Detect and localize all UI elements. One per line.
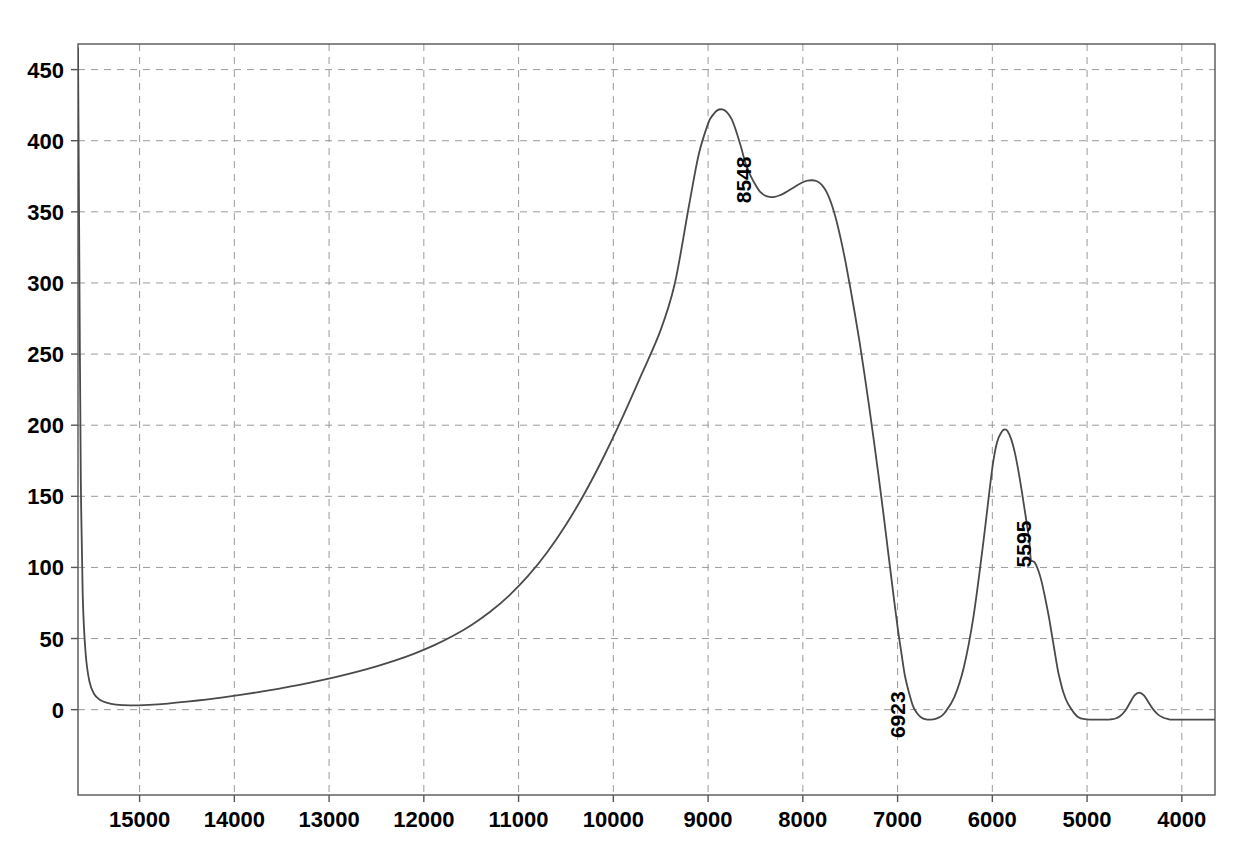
y-tick-label: 250 <box>27 342 64 367</box>
x-tick-label: 15000 <box>109 807 170 832</box>
x-tick-label: 9000 <box>684 807 733 832</box>
x-tick-label: 8000 <box>778 807 827 832</box>
y-tick-label: 200 <box>27 413 64 438</box>
y-tick-label: 450 <box>27 58 64 83</box>
y-tick-label: 300 <box>27 271 64 296</box>
x-tick-label: 6000 <box>968 807 1017 832</box>
y-tick-label: 50 <box>40 627 64 652</box>
plot-background <box>78 44 1215 795</box>
x-axis-tick-labels: 1500014000130001200011000100009000800070… <box>109 807 1206 832</box>
x-tick-label: 4000 <box>1157 807 1206 832</box>
x-tick-label: 14000 <box>204 807 265 832</box>
y-axis-tick-labels: 050100150200250300350400450 <box>27 58 64 723</box>
y-tick-label: 0 <box>52 698 64 723</box>
peak-label-6923: 6923 <box>886 691 909 738</box>
x-tick-label: 10000 <box>583 807 644 832</box>
y-tick-label: 350 <box>27 200 64 225</box>
peak-label-5595: 5595 <box>1012 520 1035 567</box>
x-tick-label: 13000 <box>298 807 359 832</box>
x-tick-label: 11000 <box>489 807 549 832</box>
y-tick-label: 150 <box>27 484 64 509</box>
x-tick-label: 12000 <box>393 807 454 832</box>
spectrum-chart: 050100150200250300350400450 150001400013… <box>0 0 1256 856</box>
peak-label-8548: 8548 <box>732 156 755 203</box>
x-tick-label: 7000 <box>873 807 922 832</box>
y-tick-label: 100 <box>27 555 64 580</box>
x-tick-label: 5000 <box>1063 807 1112 832</box>
chart-canvas: 050100150200250300350400450 150001400013… <box>0 0 1256 856</box>
y-tick-label: 400 <box>27 129 64 154</box>
